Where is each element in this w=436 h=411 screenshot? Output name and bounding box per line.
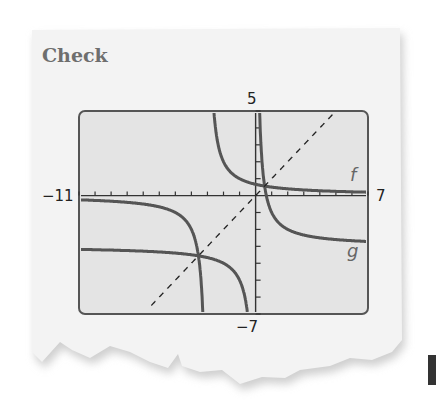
graphing-calculator-screen bbox=[0, 0, 436, 411]
ymax-label: 5 bbox=[247, 90, 257, 108]
ymin-label: −7 bbox=[236, 318, 258, 336]
f-curve-label: f bbox=[350, 164, 356, 185]
page-edge-mark bbox=[428, 355, 436, 385]
xmax-label: 7 bbox=[376, 187, 386, 205]
xmin-label: −11 bbox=[42, 187, 74, 205]
g-curve-label: g bbox=[347, 240, 358, 261]
screen-frame bbox=[79, 111, 368, 314]
